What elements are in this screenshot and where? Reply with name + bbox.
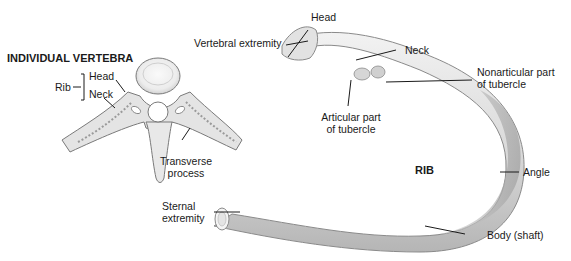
label-vertebra-rib-head: Head: [89, 70, 114, 82]
label-vertebral-extremity: Vertebral extremity: [194, 37, 282, 49]
label-nonarticular-tubercle: Nonarticular part of tubercle: [477, 66, 555, 90]
label-sternal-extremity: Sternal extremity: [162, 200, 205, 224]
label-articular-tubercle: Articular part of tubercle: [318, 111, 384, 135]
label-vertebra-rib-neck: Neck: [89, 88, 113, 100]
label-rib-head: Head: [311, 11, 336, 23]
label-rib-neck: Neck: [405, 44, 429, 56]
label-transverse-process: Transverse process: [156, 155, 216, 179]
label-rib: Rib: [55, 81, 71, 93]
rib-title: RIB: [415, 164, 434, 176]
illustration-layer: [0, 0, 571, 261]
label-angle: Angle: [523, 166, 550, 178]
label-body-shaft: Body (shaft): [487, 229, 544, 241]
vertebra-title: INDIVIDUAL VERTEBRA: [7, 52, 133, 64]
anatomy-figure: INDIVIDUAL VERTEBRA Rib Head Neck Transv…: [0, 0, 571, 261]
rib-illustration: [214, 27, 524, 252]
